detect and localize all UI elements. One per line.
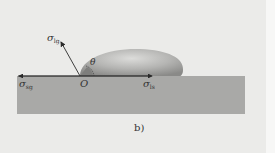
label-sigma-lg: σlg	[47, 33, 60, 46]
droplet	[80, 49, 183, 76]
label-sigma-ls: σls	[143, 79, 155, 92]
label-sigma-sg: σsg	[19, 79, 33, 92]
sigma-lg-vector	[61, 42, 80, 76]
figure-caption: b)	[134, 122, 144, 133]
label-origin: O	[80, 79, 88, 89]
label-theta: θ	[90, 57, 95, 67]
substrate	[17, 76, 245, 114]
